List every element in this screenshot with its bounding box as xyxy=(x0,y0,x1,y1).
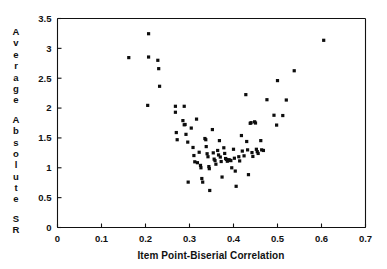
x-tick-label: 0.4 xyxy=(227,233,241,244)
scatter-plot-figure: 00.10.20.30.40.50.60.700.511.522.533.5 A… xyxy=(0,0,387,269)
data-point xyxy=(183,105,186,108)
y-axis-label-char: g xyxy=(8,83,24,94)
data-point xyxy=(259,139,262,142)
y-axis-label-char: b xyxy=(8,125,24,136)
y-axis-label-char: v xyxy=(8,37,24,48)
data-point xyxy=(213,159,216,162)
data-point xyxy=(233,157,236,160)
tick-labels: 00.10.20.30.40.50.60.700.511.522.533.5 xyxy=(38,13,372,244)
data-point xyxy=(244,93,247,96)
data-point xyxy=(262,149,265,152)
y-tick-label: 1 xyxy=(46,162,52,173)
data-point xyxy=(237,155,240,158)
data-point xyxy=(276,79,279,82)
data-point xyxy=(208,189,211,192)
data-point xyxy=(195,118,198,121)
data-point xyxy=(322,39,325,42)
axes xyxy=(58,19,366,228)
y-tick-label: 2 xyxy=(46,102,51,113)
y-axis-label-char: r xyxy=(8,60,24,71)
data-point xyxy=(147,55,150,58)
x-tick-label: 0.1 xyxy=(95,233,109,244)
data-point xyxy=(201,181,204,184)
data-point xyxy=(198,151,201,154)
x-tick-label: 0.7 xyxy=(359,233,372,244)
data-point xyxy=(146,104,149,107)
data-point xyxy=(216,149,219,152)
y-tick-label: 0 xyxy=(46,222,51,233)
data-point xyxy=(214,163,217,166)
data-point xyxy=(184,133,187,136)
x-tick-label: 0.2 xyxy=(139,233,152,244)
data-point xyxy=(250,151,253,154)
data-point xyxy=(220,160,223,163)
data-point xyxy=(265,98,268,101)
data-point xyxy=(242,154,245,157)
y-axis-label-char: o xyxy=(8,148,24,159)
data-point xyxy=(186,141,189,144)
data-point xyxy=(208,167,211,170)
data-point xyxy=(176,138,179,141)
data-point xyxy=(246,148,249,151)
data-point xyxy=(204,138,207,141)
data-point xyxy=(157,67,160,70)
data-point xyxy=(174,105,177,108)
x-tick-label: 0.5 xyxy=(271,233,285,244)
data-point xyxy=(181,119,184,122)
data-point xyxy=(219,155,222,158)
data-point xyxy=(187,181,190,184)
y-tick-label: 3 xyxy=(46,43,51,54)
data-point xyxy=(241,149,244,152)
data-point xyxy=(200,177,203,180)
data-point xyxy=(223,152,226,155)
data-point xyxy=(234,169,237,172)
data-point xyxy=(174,111,177,114)
data-point xyxy=(272,114,275,117)
data-point xyxy=(250,121,253,124)
tick-marks xyxy=(58,19,366,228)
data-point xyxy=(211,128,214,131)
data-point xyxy=(147,32,150,35)
y-tick-label: 0.5 xyxy=(38,192,52,203)
data-point xyxy=(218,139,221,142)
data-point xyxy=(212,151,215,154)
data-point xyxy=(229,159,232,162)
data-point xyxy=(184,123,187,126)
y-tick-label: 2.5 xyxy=(38,73,52,84)
data-point xyxy=(191,146,194,149)
data-point xyxy=(275,123,278,126)
data-point xyxy=(222,146,225,149)
data-point xyxy=(196,161,199,164)
data-point xyxy=(190,126,193,129)
y-tick-label: 3.5 xyxy=(38,13,52,24)
data-point xyxy=(156,59,159,62)
y-axis-label-char: e xyxy=(8,49,24,60)
y-axis-label-char: e xyxy=(8,193,24,204)
x-tick-label: 0 xyxy=(55,233,60,244)
data-point xyxy=(254,121,257,124)
y-axis-label: AverageAbsoluteSR xyxy=(8,26,24,236)
y-axis-label-char: a xyxy=(8,72,24,83)
data-points xyxy=(127,32,325,192)
data-point xyxy=(199,166,202,169)
y-tick-label: 1.5 xyxy=(38,132,52,143)
data-point xyxy=(127,56,130,59)
data-point xyxy=(293,69,296,72)
data-point xyxy=(247,173,250,176)
data-point xyxy=(175,131,178,134)
y-axis-label-char: t xyxy=(8,182,24,193)
data-point xyxy=(245,140,248,143)
y-axis-label-char: s xyxy=(8,137,24,148)
x-tick-label: 0.3 xyxy=(183,233,196,244)
data-point xyxy=(205,145,208,148)
y-axis-label-char: l xyxy=(8,159,24,170)
data-point xyxy=(257,152,260,155)
plot-canvas: 00.10.20.30.40.50.60.700.511.522.533.5 xyxy=(0,0,387,269)
y-axis-label-char: S xyxy=(8,213,24,224)
data-point xyxy=(251,155,254,158)
data-point xyxy=(240,134,243,137)
data-point xyxy=(232,148,235,151)
data-point xyxy=(238,159,241,162)
data-point xyxy=(281,114,284,117)
data-point xyxy=(206,152,209,155)
